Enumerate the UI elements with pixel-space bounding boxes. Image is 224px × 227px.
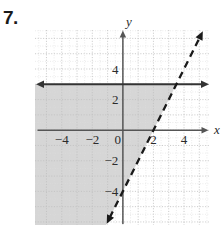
coordinate-plot: −4−2024−4−224 x y <box>33 14 208 209</box>
x-tick-label: 4 <box>181 132 188 147</box>
y-axis-label: y <box>124 14 132 29</box>
y-tick-label: −2 <box>105 153 119 168</box>
graph-svg: −4−2024−4−224 x y <box>33 14 224 227</box>
x-tick-label: −4 <box>55 132 69 147</box>
figure-container: 7. −4−2024−4−224 <box>0 0 224 227</box>
x-tick-label: 2 <box>150 132 157 147</box>
x-axis-label: x <box>213 122 220 137</box>
problem-number: 7. <box>3 8 18 27</box>
y-tick-label: 2 <box>112 92 119 107</box>
x-tick-label: −2 <box>85 132 99 147</box>
y-tick-label: −4 <box>105 184 119 199</box>
y-tick-label: 4 <box>112 62 119 77</box>
x-tick-label: 0 <box>114 132 121 147</box>
